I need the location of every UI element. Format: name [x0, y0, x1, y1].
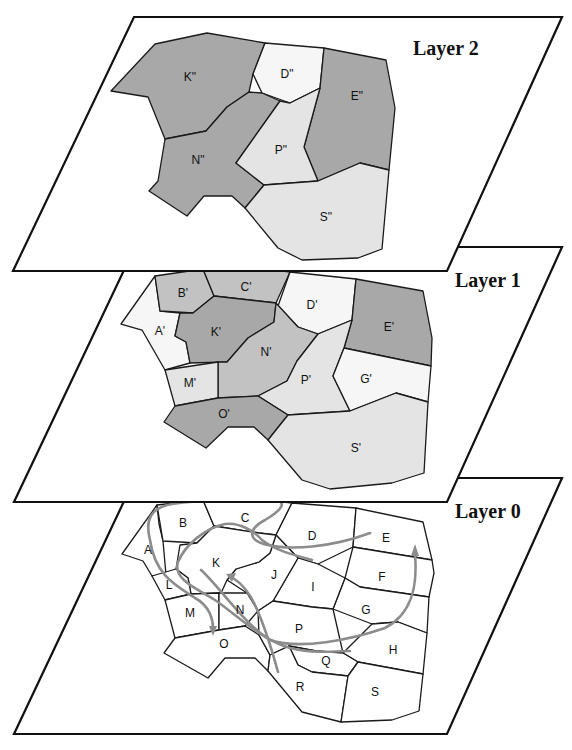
cell-label: P" [275, 143, 287, 157]
cell-label: N' [261, 345, 272, 359]
cell-label: Q [321, 654, 330, 668]
layer-1: A' B' C' D' E' K' N' M' P' G' O' S' Laye… [14, 247, 562, 502]
cell-label: K" [184, 70, 196, 84]
cell-label: L [166, 578, 173, 592]
cell-label: C' [241, 280, 252, 294]
layer-2: K" D" E" N" P" S" Layer 2 [13, 17, 562, 271]
cell-label: F [378, 570, 385, 584]
cell-label: E [382, 531, 390, 545]
cell-label: G [361, 603, 370, 617]
cell-label: C [241, 511, 250, 525]
cell-label: E' [384, 320, 394, 334]
cell-label: E" [351, 89, 363, 103]
cell-label: D" [281, 67, 294, 81]
cell-label: M' [184, 376, 196, 390]
layer-2-title: Layer 2 [413, 37, 479, 60]
cell-label: B [179, 516, 187, 530]
cell-label: D [308, 529, 317, 543]
layer-0-title: Layer 0 [455, 500, 521, 523]
cell-label: N [236, 603, 245, 617]
layer-0: A B C D E F G H I J K L M N O P Q R S La… [14, 478, 562, 734]
layered-region-diagram: A B C D E F G H I J K L M N O P Q R S La… [0, 0, 572, 750]
layer-1-title: Layer 1 [455, 269, 521, 292]
cell-label: R [296, 680, 305, 694]
cell-label: A [144, 543, 152, 557]
cell-label: J [271, 568, 277, 582]
cell-label: H [389, 643, 398, 657]
cell-label: O [219, 637, 228, 651]
cell-label: P' [301, 373, 311, 387]
cell-label: P [295, 622, 303, 636]
cell-label: N" [192, 153, 205, 167]
cell-label: S" [320, 210, 332, 224]
cell-label: S' [351, 441, 361, 455]
cell-label: A' [155, 324, 165, 338]
cell-label: S [371, 685, 379, 699]
cell-label: O' [218, 407, 230, 421]
cell-label: G' [360, 372, 372, 386]
cell-label: K [212, 556, 220, 570]
cell-label: K' [211, 325, 221, 339]
cell-label: D' [307, 298, 318, 312]
cell-label: B' [178, 286, 188, 300]
cell-label: I [311, 580, 314, 594]
cell-label: M [185, 606, 195, 620]
